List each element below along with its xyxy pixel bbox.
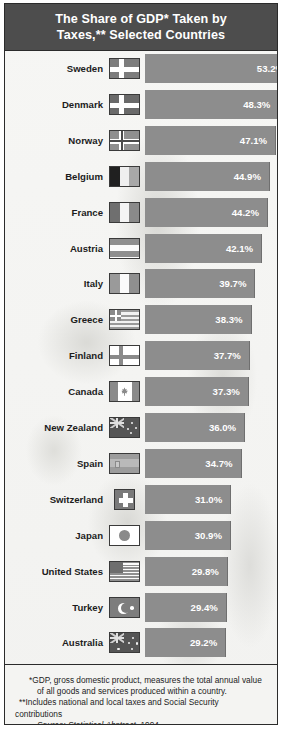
table-row: United States29.8% — [5, 557, 277, 586]
table-row: Canada37.3% — [5, 377, 277, 406]
bar-value-label: 37.7% — [214, 350, 249, 361]
flag-canada — [109, 381, 140, 402]
value-bar: 47.1% — [145, 126, 276, 155]
country-label: New Zealand — [5, 422, 109, 433]
value-bar: 44.9% — [145, 162, 270, 191]
footnote-gdp-line1: *GDP, gross domestic product, measures t… — [29, 675, 262, 685]
chart-panel: The Share of GDP* Taken by Taxes,** Sele… — [4, 3, 278, 725]
bar-track: 38.3% — [145, 305, 277, 334]
bar-track: 37.7% — [145, 341, 277, 370]
page-title: The Share of GDP* Taken by Taxes,** Sele… — [55, 11, 227, 43]
bar-value-label: 48.3% — [243, 99, 278, 110]
footnote-gdp-line2: of all goods and services produced withi… — [15, 686, 267, 697]
flag-finland — [109, 345, 140, 366]
value-bar: 34.7% — [145, 449, 242, 478]
footnote-source: Source: Statistical Abstract, 1994 — [15, 720, 267, 725]
bar-value-label: 36.0% — [209, 422, 244, 433]
value-bar: 42.1% — [145, 234, 262, 263]
bar-track: 44.2% — [145, 198, 277, 227]
table-row: Spain34.7% — [5, 449, 277, 478]
country-label: Spain — [5, 458, 109, 469]
country-label: Turkey — [5, 602, 109, 613]
flag-sweden — [109, 58, 140, 79]
flag-new-zealand — [109, 417, 140, 438]
source-year: , 1994 — [136, 720, 159, 725]
country-label: Austria — [5, 243, 109, 254]
flag-norway — [109, 130, 140, 151]
flag-japan — [109, 525, 140, 546]
flag-italy — [109, 273, 140, 294]
value-bar: 31.0% — [145, 485, 231, 514]
value-bar: 38.3% — [145, 305, 252, 334]
flag-united-states — [109, 561, 140, 582]
table-row: Finland37.7% — [5, 341, 277, 370]
source-name: Statistical Abstract — [68, 720, 136, 725]
country-label: United States — [5, 566, 109, 577]
bar-track: 53.2% — [145, 54, 277, 83]
country-label: Belgium — [5, 171, 109, 182]
flag-belgium — [109, 166, 140, 187]
table-row: Greece38.3% — [5, 305, 277, 334]
table-row: France44.2% — [5, 198, 277, 227]
table-row: Austria42.1% — [5, 234, 277, 263]
flag-greece — [109, 309, 140, 330]
flag-denmark — [109, 94, 140, 115]
bar-track: 29.4% — [145, 593, 277, 622]
bar-track: 42.1% — [145, 234, 277, 263]
value-bar: 53.2% — [145, 54, 278, 83]
title-line-2: Taxes,** Selected Countries — [55, 27, 227, 43]
bar-value-label: 44.2% — [232, 207, 267, 218]
bar-chart-plot: Sweden53.2%Denmark48.3%Norway47.1%Belgiu… — [5, 52, 277, 664]
value-bar: 44.2% — [145, 198, 268, 227]
table-row: Italy39.7% — [5, 269, 277, 298]
bar-value-label: 47.1% — [240, 135, 275, 146]
flag-france — [109, 202, 140, 223]
bar-track: 31.0% — [145, 485, 277, 514]
bar-value-label: 29.4% — [191, 602, 226, 613]
bar-value-label: 31.0% — [195, 494, 230, 505]
country-label: France — [5, 207, 109, 218]
country-label: Switzerland — [5, 494, 109, 505]
footnote-gdp: *GDP, gross domestic product, measures t… — [15, 675, 267, 697]
bar-track: 47.1% — [145, 126, 277, 155]
value-bar: 30.9% — [145, 521, 231, 550]
value-bar: 37.3% — [145, 377, 249, 406]
bar-value-label: 29.8% — [192, 566, 227, 577]
country-label: Greece — [5, 314, 109, 325]
bar-value-label: 29.2% — [190, 637, 225, 648]
country-label: Norway — [5, 135, 109, 146]
bar-value-label: 53.2% — [257, 63, 278, 74]
source-label: Source: — [37, 720, 66, 725]
table-row: Switzerland31.0% — [5, 485, 277, 514]
table-row: Sweden53.2% — [5, 54, 277, 83]
value-bar: 29.8% — [145, 557, 228, 586]
bar-value-label: 30.9% — [195, 530, 230, 541]
country-label: Italy — [5, 278, 109, 289]
table-row: Turkey29.4% — [5, 593, 277, 622]
bar-value-label: 44.9% — [234, 171, 269, 182]
bar-track: 39.7% — [145, 269, 277, 298]
flag-switzerland — [114, 489, 135, 510]
chart-title-bar: The Share of GDP* Taken by Taxes,** Sele… — [5, 4, 277, 51]
value-bar: 36.0% — [145, 413, 245, 442]
table-row: Belgium44.9% — [5, 162, 277, 191]
flag-turkey — [109, 597, 140, 618]
value-bar: 29.4% — [145, 593, 227, 622]
country-label: Japan — [5, 530, 109, 541]
flag-australia — [109, 632, 140, 653]
bar-value-label: 37.3% — [213, 386, 248, 397]
table-row: New Zealand36.0% — [5, 413, 277, 442]
value-bar: 48.3% — [145, 90, 278, 119]
country-label: Sweden — [5, 63, 109, 74]
table-row: Japan30.9% — [5, 521, 277, 550]
value-bar: 29.2% — [145, 628, 226, 657]
bar-track: 34.7% — [145, 449, 277, 478]
footnote-taxes: **Includes national and local taxes and … — [15, 697, 267, 719]
flag-spain — [109, 453, 140, 474]
bar-track: 29.8% — [145, 557, 277, 586]
bar-track: 48.3% — [145, 90, 277, 119]
country-label: Denmark — [5, 99, 109, 110]
bar-track: 44.9% — [145, 162, 277, 191]
bar-track: 29.2% — [145, 628, 277, 657]
table-row: Denmark48.3% — [5, 90, 277, 119]
